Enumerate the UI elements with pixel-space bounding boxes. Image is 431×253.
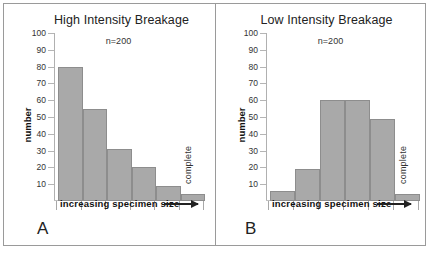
y-tick bbox=[48, 184, 54, 185]
panel-a-title: High Intensity Breakage bbox=[4, 13, 215, 27]
y-tick bbox=[260, 151, 266, 152]
panel-a-letter: A bbox=[37, 219, 48, 239]
bar bbox=[132, 167, 157, 201]
y-tick bbox=[260, 117, 266, 118]
bar bbox=[370, 119, 395, 201]
bar bbox=[345, 100, 370, 201]
panel-b-title: Low Intensity Breakage bbox=[216, 13, 427, 27]
panel-a-x-axis-label: increasing specimen size bbox=[60, 198, 179, 209]
x-tick bbox=[56, 201, 57, 210]
y-tick-label: 70 bbox=[37, 78, 46, 88]
panel-b-x-axis-label: increasing specimen size bbox=[272, 198, 391, 209]
y-tick bbox=[48, 100, 54, 101]
y-tick-label: 40 bbox=[249, 129, 258, 139]
panel-a-y-axis-label: number bbox=[22, 107, 33, 142]
y-tick bbox=[48, 83, 54, 84]
y-tick bbox=[48, 33, 54, 34]
y-tick-label: 70 bbox=[249, 78, 258, 88]
panel-b-letter: B bbox=[245, 219, 256, 239]
y-tick bbox=[260, 83, 266, 84]
y-tick bbox=[260, 100, 266, 101]
y-tick bbox=[260, 184, 266, 185]
y-tick-label: 20 bbox=[37, 162, 46, 172]
y-tick-label: 20 bbox=[249, 162, 258, 172]
panel-b-y-axis-label: number bbox=[236, 107, 247, 142]
y-tick bbox=[48, 67, 54, 68]
y-tick-label: 80 bbox=[249, 62, 258, 72]
y-tick bbox=[48, 151, 54, 152]
y-tick bbox=[260, 167, 266, 168]
y-tick-label: 100 bbox=[244, 28, 258, 38]
x-tick bbox=[393, 201, 394, 210]
y-tick-label: 60 bbox=[249, 95, 258, 105]
y-tick bbox=[48, 167, 54, 168]
bar bbox=[320, 100, 345, 201]
bar bbox=[83, 109, 108, 201]
y-tick-label: 50 bbox=[249, 112, 258, 122]
y-tick-label: 30 bbox=[249, 146, 258, 156]
y-tick bbox=[48, 117, 54, 118]
y-tick bbox=[260, 134, 266, 135]
panel-b-plot-area: 102030405060708090100 bbox=[266, 33, 418, 201]
bar bbox=[58, 67, 83, 201]
y-tick-label: 90 bbox=[37, 45, 46, 55]
panel-a-plot-area: 102030405060708090100 bbox=[54, 33, 204, 201]
panel-a-x-axis-arrow-icon bbox=[164, 203, 198, 205]
bar bbox=[295, 169, 320, 201]
figure-frame: High Intensity Breakage n=200 number 102… bbox=[3, 3, 426, 246]
y-tick-label: 60 bbox=[37, 95, 46, 105]
y-tick-label: 10 bbox=[37, 179, 46, 189]
bar bbox=[107, 149, 132, 201]
y-tick bbox=[260, 50, 266, 51]
y-tick-label: 90 bbox=[249, 45, 258, 55]
y-tick-label: 50 bbox=[37, 112, 46, 122]
y-tick-label: 40 bbox=[37, 129, 46, 139]
y-tick-label: 80 bbox=[37, 62, 46, 72]
x-tick bbox=[268, 201, 269, 210]
panel-b-x-axis-arrow-icon bbox=[377, 203, 411, 205]
y-tick bbox=[260, 33, 266, 34]
y-tick-label: 10 bbox=[249, 179, 258, 189]
panel-b-bars bbox=[267, 33, 418, 201]
y-tick-label: 30 bbox=[37, 146, 46, 156]
panel-a-complete-label: complete bbox=[183, 146, 193, 184]
x-tick bbox=[203, 201, 204, 210]
y-tick bbox=[260, 67, 266, 68]
y-tick bbox=[48, 50, 54, 51]
panel-b: Low Intensity Breakage n=200 number 1020… bbox=[215, 4, 427, 245]
y-tick-label: 100 bbox=[32, 28, 46, 38]
panel-a: High Intensity Breakage n=200 number 102… bbox=[4, 4, 215, 245]
x-tick bbox=[418, 201, 419, 210]
panel-b-complete-label: complete bbox=[398, 146, 408, 184]
panel-a-bars bbox=[55, 33, 204, 201]
y-tick bbox=[48, 134, 54, 135]
